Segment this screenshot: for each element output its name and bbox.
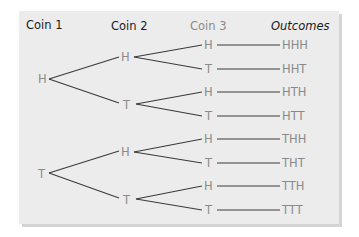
coin3-node: T: [204, 109, 213, 123]
outcome-label: THT: [281, 156, 306, 170]
outcome-label: TTT: [281, 203, 304, 217]
coin3-node: T: [204, 156, 213, 170]
coin2-node: H: [121, 50, 130, 64]
coin3-node: T: [204, 62, 213, 76]
coin3-node: H: [204, 132, 213, 146]
probability-tree: Coin 1 Coin 2 Coin 3 Outcomes H T H T H …: [0, 0, 359, 237]
branches-coin1-to-coin2: [49, 57, 119, 198]
coin2-node: T: [122, 98, 131, 112]
coin3-node: H: [204, 85, 213, 99]
header-coin2: Coin 2: [111, 19, 148, 33]
header-coin1: Coin 1: [26, 18, 63, 32]
outcome-label: HHH: [282, 38, 308, 52]
header-outcomes: Outcomes: [271, 19, 329, 33]
connectors-coin3-to-outcomes: [217, 45, 280, 210]
outcome-label: HHT: [282, 62, 307, 76]
coin3-node: H: [204, 179, 213, 193]
outcome-label: TTH: [281, 179, 305, 193]
outcome-label: HTT: [282, 109, 305, 123]
branches-coin2-to-coin3: [134, 45, 202, 210]
outcome-label: HTH: [282, 85, 306, 99]
coin3-node: H: [204, 38, 213, 52]
coin1-node: H: [38, 72, 47, 86]
coin3-node: T: [204, 203, 213, 217]
coin2-node: H: [121, 145, 130, 159]
outcome-label: THH: [281, 132, 306, 146]
coin1-node: T: [37, 167, 46, 181]
coin2-node: T: [122, 193, 131, 207]
header-coin3: Coin 3: [190, 19, 227, 33]
